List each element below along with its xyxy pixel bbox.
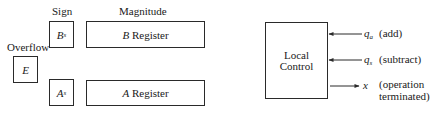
qa-subscript: a bbox=[370, 33, 374, 41]
signal-x: x bbox=[363, 80, 368, 91]
signal-qa: qa bbox=[364, 28, 373, 41]
signal-x-description-line2: terminated) bbox=[379, 91, 430, 102]
signal-qs-description: (subtract) bbox=[379, 54, 421, 65]
signal-x-description-line1: (operation bbox=[379, 79, 424, 90]
qs-subscript: s bbox=[370, 59, 373, 67]
signal-qs: qs bbox=[364, 54, 372, 67]
signal-qa-description: (add) bbox=[379, 28, 402, 39]
